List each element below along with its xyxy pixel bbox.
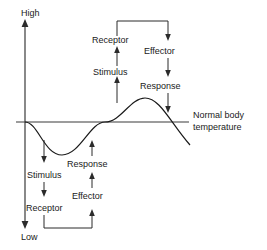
upper-response-arrow (165, 70, 171, 77)
upper-response-label: Response (140, 81, 181, 91)
lower-response-to-curve-connector (89, 140, 95, 156)
lower-effector-arrow (89, 209, 95, 216)
upper-effector-label: Effector (144, 46, 175, 56)
axis-low-label: Low (21, 232, 38, 242)
upper-curve-return-arrow (165, 106, 171, 113)
lower-response-label: Response (67, 159, 108, 169)
upper-stimulus-label: Stimulus (93, 67, 128, 77)
upper-receptor-label: Receptor (92, 35, 129, 45)
upper-effector-arrow (165, 34, 171, 41)
upper-stimulus-to-receptor-connector (114, 46, 120, 66)
lower-bottom-bracket-line (44, 214, 92, 228)
lower-response-arrow (89, 172, 95, 179)
lower-effector-to-response-connector (89, 172, 95, 188)
lower-stimulus-to-receptor-connector (41, 182, 47, 197)
upper-response-to-curve-connector (165, 93, 171, 113)
temperature-curve (25, 98, 190, 155)
diagram-root: High Low Normal body temperature Stimulu… (0, 0, 267, 250)
upper-curve-to-stimulus-connector (114, 76, 120, 103)
baseline-label-line2: temperature (193, 122, 242, 132)
vertical-axis-arrow-down (22, 221, 29, 229)
upper-receptor-arrow (114, 46, 120, 53)
feedback-diagram-svg: High Low Normal body temperature Stimulu… (0, 0, 267, 250)
lower-stimulus-label: Stimulus (27, 170, 62, 180)
lower-receptor-label: Receptor (26, 203, 63, 213)
lower-curve-to-stimulus-connector (41, 140, 47, 163)
lower-receptor-arrow (41, 190, 47, 197)
baseline-label-line1: Normal body (193, 110, 245, 120)
lower-curve-return-arrow (89, 140, 95, 147)
axis-high-label: High (21, 8, 40, 18)
upper-top-bracket-line (117, 21, 168, 36)
vertical-axis-arrow-up (22, 19, 29, 27)
lower-effector-label: Effector (72, 191, 103, 201)
upper-effector-to-response-connector (165, 58, 171, 77)
lower-stimulus-arrow (41, 156, 47, 163)
upper-stimulus-arrow (114, 76, 120, 83)
vertical-axis-group (22, 19, 29, 229)
